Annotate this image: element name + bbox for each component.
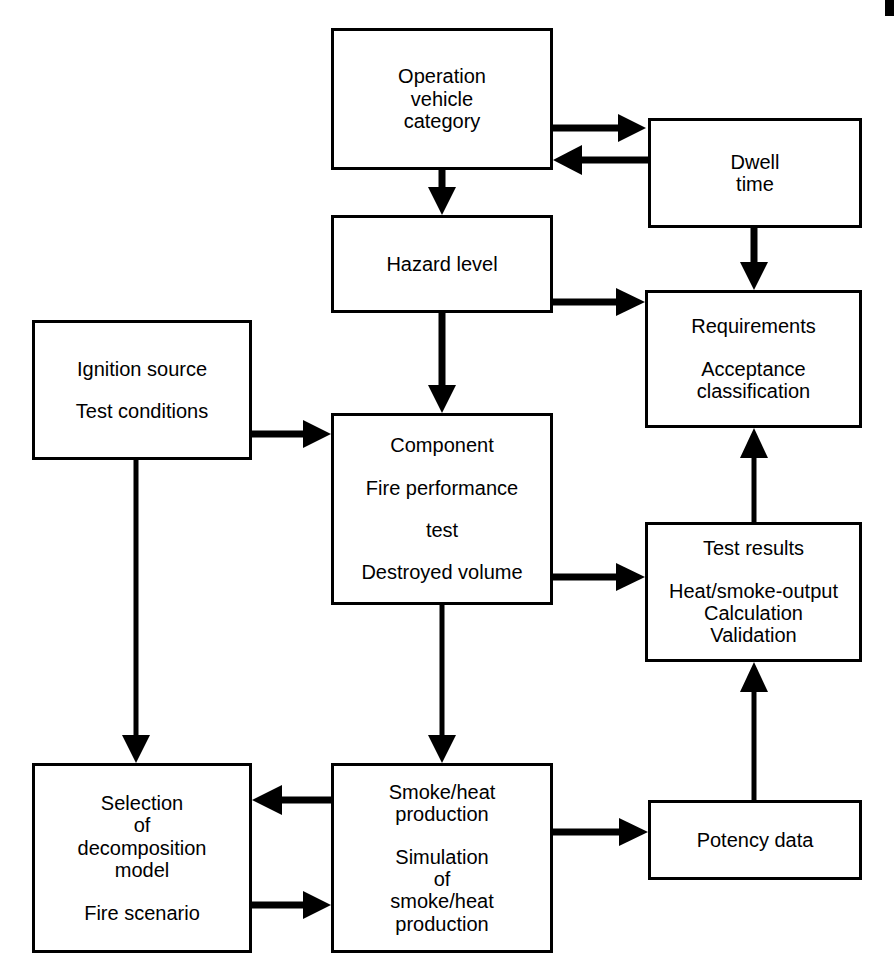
edge-hazard-to-requirements <box>553 288 645 316</box>
node-text-group: test <box>426 519 458 541</box>
node-text-group: Operation vehicle category <box>398 65 486 132</box>
node-selection-decomposition-model[interactable]: Selection of decomposition model Fire sc… <box>32 763 252 953</box>
edge-operation-to-hazard <box>428 170 456 215</box>
node-line: Dwell <box>731 151 780 173</box>
node-line: Operation <box>398 65 486 87</box>
node-text-group: Destroyed volume <box>361 561 522 583</box>
node-line: Destroyed volume <box>361 561 522 583</box>
edge-potency-to-testresults <box>740 662 768 800</box>
node-line: Test results <box>703 537 804 559</box>
edge-smokeheat-to-selection <box>252 785 331 815</box>
edge-testresults-to-requirements <box>740 428 768 522</box>
node-line: classification <box>697 380 810 402</box>
node-line: Heat/smoke-output <box>669 580 838 602</box>
node-line: category <box>398 110 486 132</box>
node-text-group: Fire scenario <box>84 902 200 924</box>
node-text-group: Fire performance <box>366 477 518 499</box>
edge-dwell-to-operation <box>553 145 648 175</box>
node-line: Component <box>390 434 493 456</box>
node-line: Potency data <box>697 829 814 851</box>
node-test-results[interactable]: Test results Heat/smoke-output Calculati… <box>645 522 862 662</box>
node-text-group: Test conditions <box>76 400 208 422</box>
node-line: Simulation <box>390 846 493 868</box>
node-text-group: Dwell time <box>731 151 780 196</box>
node-line: model <box>78 859 207 881</box>
node-hazard-level[interactable]: Hazard level <box>331 215 553 313</box>
node-dwell-time[interactable]: Dwell time <box>648 118 862 228</box>
node-line: vehicle <box>398 88 486 110</box>
node-line: Validation <box>669 624 838 646</box>
node-operation-vehicle-category[interactable]: Operation vehicle category <box>331 28 553 170</box>
node-line: Fire performance <box>366 477 518 499</box>
node-text-group: Acceptance classification <box>697 358 810 403</box>
edge-ignition-to-selection <box>122 460 150 763</box>
edge-dwell-to-requirements <box>740 228 768 290</box>
node-text-group: Heat/smoke-output Calculation Validation <box>669 580 838 647</box>
node-component-fire-performance-test[interactable]: Component Fire performance test Destroye… <box>331 413 553 605</box>
node-line: Smoke/heat <box>389 781 496 803</box>
node-smoke-heat-production[interactable]: Smoke/heat production Simulation of smok… <box>331 763 553 953</box>
node-text-group: Component <box>390 434 493 456</box>
node-requirements[interactable]: Requirements Acceptance classification <box>645 290 862 428</box>
node-text-group: Hazard level <box>386 253 497 275</box>
page-corner-mark <box>885 0 894 16</box>
edge-ignition-to-component <box>252 420 331 448</box>
node-text-group: Ignition source <box>77 358 207 380</box>
edge-component-to-smokeheat <box>428 605 456 763</box>
node-text-group: Simulation of smoke/heat production <box>390 846 493 936</box>
node-line: Hazard level <box>386 253 497 275</box>
node-text-group: Smoke/heat production <box>389 781 496 826</box>
edge-smokeheat-to-potency <box>553 818 648 846</box>
node-text-group: Selection of decomposition model <box>78 792 207 882</box>
node-line: test <box>426 519 458 541</box>
node-line: production <box>390 913 493 935</box>
node-potency-data[interactable]: Potency data <box>648 800 862 880</box>
node-line: Test conditions <box>76 400 208 422</box>
node-line: of <box>390 868 493 890</box>
edge-selection-to-smokeheat <box>252 891 331 919</box>
node-line: production <box>389 803 496 825</box>
node-line: of <box>78 814 207 836</box>
node-line: Calculation <box>669 602 838 624</box>
edge-hazard-to-component <box>428 313 456 413</box>
node-line: time <box>731 173 780 195</box>
node-line: Acceptance <box>697 358 810 380</box>
node-line: Selection <box>78 792 207 814</box>
node-text-group: Potency data <box>697 829 814 851</box>
node-ignition-source[interactable]: Ignition source Test conditions <box>32 320 252 460</box>
node-text-group: Test results <box>703 537 804 559</box>
node-text-group: Requirements <box>691 315 816 337</box>
node-line: Requirements <box>691 315 816 337</box>
node-line: decomposition <box>78 837 207 859</box>
node-line: Fire scenario <box>84 902 200 924</box>
edge-component-to-testresults <box>553 563 645 591</box>
edge-operation-to-dwell <box>553 114 646 142</box>
node-line: Ignition source <box>77 358 207 380</box>
node-line: smoke/heat <box>390 890 493 912</box>
flowchart-canvas: Operation vehicle category Dwell time Ha… <box>0 0 894 978</box>
